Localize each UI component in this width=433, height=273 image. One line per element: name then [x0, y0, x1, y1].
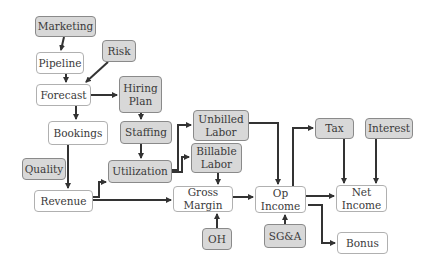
- node-bonus: Bonus: [337, 232, 388, 254]
- node-net-income: Net Income: [336, 185, 387, 212]
- node-interest: Interest: [365, 118, 413, 139]
- arrow-revenue-to-utilization: [93, 182, 106, 197]
- arrow-op_income-to-bonus: [308, 205, 335, 243]
- node-revenue: Revenue: [34, 190, 93, 212]
- node-marketing: Marketing: [35, 16, 96, 37]
- node-forecast: Forecast: [36, 84, 91, 106]
- node-quality: Quality: [22, 158, 66, 180]
- node-utilization: Utilization: [108, 160, 172, 183]
- node-op-income: Op Income: [255, 186, 306, 213]
- arrow-marketing-to-pipeline: [61, 37, 64, 50]
- node-oh: OH: [202, 228, 232, 250]
- node-hiring-plan: Hiring Plan: [119, 76, 162, 113]
- arrow-unbilled_labor-to-op_income: [249, 123, 278, 184]
- node-unbilled-labor: Unbilled Labor: [193, 110, 249, 141]
- node-gross-margin: Gross Margin: [173, 186, 233, 212]
- node-staffing: Staffing: [120, 121, 172, 144]
- arrow-op_income-to-tax: [293, 128, 313, 186]
- arrow-risk-to-forecast: [86, 62, 108, 82]
- node-sga: SG&A: [264, 224, 306, 248]
- node-tax: Tax: [315, 118, 354, 139]
- node-bookings: Bookings: [48, 121, 108, 145]
- node-risk: Risk: [102, 40, 136, 62]
- node-billable-labor: Billable Labor: [191, 143, 242, 173]
- diagram-canvas: MarketingRiskPipelineForecastHiring Plan…: [0, 0, 433, 273]
- node-pipeline: Pipeline: [36, 52, 84, 74]
